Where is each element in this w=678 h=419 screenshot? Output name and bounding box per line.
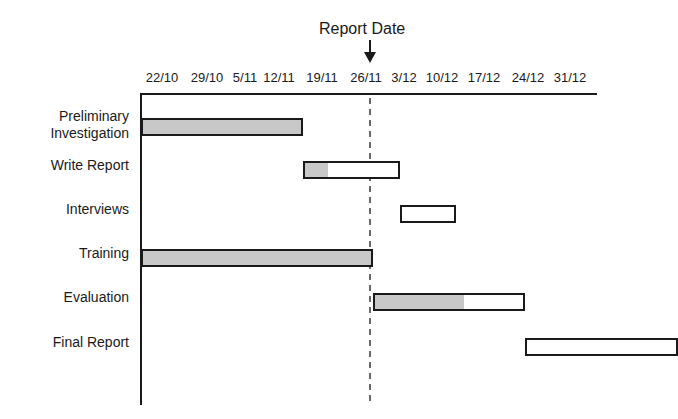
task-label: Evaluation [3, 289, 129, 306]
x-tick-label: 26/11 [350, 70, 382, 85]
x-tick-label: 3/12 [391, 70, 416, 85]
progress-fill [143, 251, 371, 265]
x-tick-label: 17/12 [468, 70, 501, 85]
progress-fill [143, 120, 301, 134]
task-bar [400, 205, 456, 223]
task-label: Interviews [3, 201, 129, 218]
task-bar [525, 338, 678, 356]
x-tick-label: 12/11 [263, 70, 295, 85]
task-bar [373, 293, 526, 311]
progress-fill [375, 295, 464, 309]
task-label-line: Training [3, 245, 129, 262]
x-tick-label: 24/12 [512, 70, 545, 85]
x-tick-label: 29/10 [191, 70, 224, 85]
task-label-line: Write Report [3, 157, 129, 174]
task-label: PreliminaryInvestigation [3, 108, 129, 142]
x-tick-label: 5/11 [233, 70, 257, 85]
task-bar [303, 161, 400, 179]
down-arrow-icon [364, 40, 376, 63]
task-label: Training [3, 245, 129, 262]
task-label-line: Preliminary [3, 108, 129, 125]
task-label-line: Final Report [3, 334, 129, 351]
x-tick-label: 19/11 [306, 70, 338, 85]
task-bar [141, 249, 373, 267]
x-tick-label: 31/12 [554, 70, 587, 85]
task-bar [141, 118, 303, 136]
x-tick-label: 10/12 [426, 70, 459, 85]
task-label-line: Interviews [3, 201, 129, 218]
task-label-line: Investigation [3, 125, 129, 142]
x-tick-label: 22/10 [146, 70, 179, 85]
task-label: Final Report [3, 334, 129, 351]
task-label: Write Report [3, 157, 129, 174]
progress-fill [305, 163, 328, 177]
task-label-line: Evaluation [3, 289, 129, 306]
